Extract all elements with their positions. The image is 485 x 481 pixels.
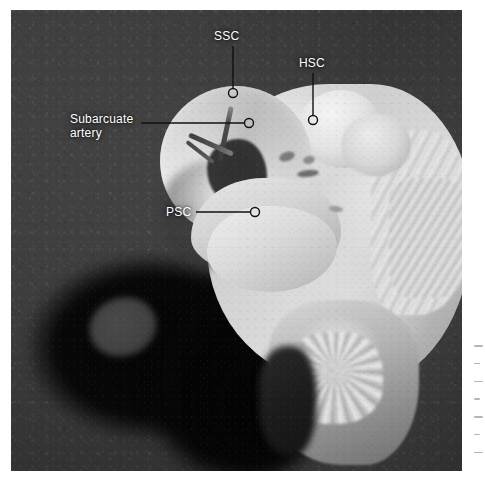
label-subarcuate-artery-line2: artery [70,127,102,141]
marker-hsc [309,116,318,125]
marker-psc [251,208,260,217]
marker-ssc [229,89,238,98]
leader-lines-svg [0,0,485,481]
annotation-layer: SSC HSC Subarcuate artery PSC [0,0,485,481]
label-psc: PSC [166,206,191,219]
marker-subarcuate-artery [245,119,254,128]
margin-caption-fragment [474,345,483,453]
label-subarcuate-artery-line1: Subarcuate [70,113,133,127]
label-ssc: SSC [214,30,239,43]
figure-container: SSC HSC Subarcuate artery PSC [0,0,485,481]
label-hsc: HSC [299,57,325,70]
